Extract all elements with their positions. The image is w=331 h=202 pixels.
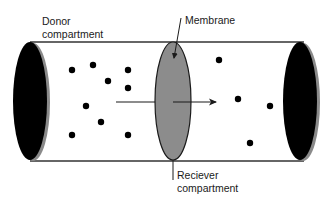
- particle: [125, 67, 131, 73]
- particle: [247, 140, 253, 146]
- particle: [235, 96, 241, 102]
- particle: [69, 132, 75, 138]
- particle: [90, 62, 96, 68]
- particle: [216, 57, 222, 63]
- particle: [83, 103, 89, 109]
- membrane: [155, 42, 191, 160]
- receiver-label-line2: compartment: [177, 182, 238, 194]
- particle: [125, 85, 131, 91]
- particle: [105, 78, 111, 84]
- right-end-cap: [283, 42, 317, 160]
- donor-label-line2: compartment: [42, 28, 103, 40]
- membrane-label: Membrane: [185, 14, 235, 26]
- particle: [98, 119, 104, 125]
- receiver-label-line1: Reciever: [177, 169, 219, 181]
- permeation-diagram: Donor compartment Membrane Reciever comp…: [0, 0, 331, 202]
- left-end-cap: [13, 42, 47, 160]
- particle: [125, 132, 131, 138]
- receiver-particles: [216, 57, 273, 146]
- particle: [69, 67, 75, 73]
- donor-particles: [69, 62, 131, 138]
- particle: [267, 103, 273, 109]
- donor-label-line1: Donor: [42, 15, 71, 27]
